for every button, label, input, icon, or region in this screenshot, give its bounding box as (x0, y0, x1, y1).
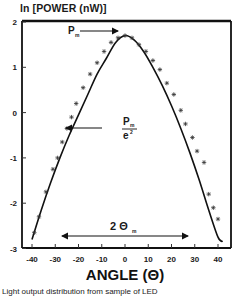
svg-text:P: P (68, 25, 75, 36)
svg-text:e: e (123, 130, 129, 141)
svg-text:0: 0 (13, 109, 18, 118)
svg-text:-10: -10 (96, 255, 108, 264)
svg-text:2 Θ: 2 Θ (110, 220, 128, 232)
x-axis-title: ANGLE (Θ) (0, 266, 250, 283)
svg-text:20: 20 (167, 255, 176, 264)
svg-text:-2: -2 (10, 199, 18, 208)
svg-text:m: m (75, 32, 80, 38)
svg-text:-40: -40 (26, 255, 38, 264)
svg-text:m: m (130, 122, 135, 128)
figure-caption: Light output distribution from sample of… (2, 287, 158, 296)
annotations: PmPme22 Θm (62, 25, 188, 236)
svg-text:m: m (132, 228, 137, 234)
svg-text:30: 30 (190, 255, 199, 264)
svg-text:40: 40 (214, 255, 223, 264)
svg-text:0: 0 (123, 255, 128, 264)
svg-text:-20: -20 (73, 255, 85, 264)
y-axis-ticks: 210-1-2-3 (10, 18, 26, 254)
svg-text:-1: -1 (10, 154, 18, 163)
svg-text:-30: -30 (49, 255, 61, 264)
svg-text:P: P (123, 116, 130, 127)
svg-text:2: 2 (130, 129, 133, 135)
svg-text:-3: -3 (10, 245, 18, 254)
svg-text:1: 1 (13, 63, 18, 72)
svg-text:10: 10 (144, 255, 153, 264)
svg-text:2: 2 (13, 18, 18, 27)
